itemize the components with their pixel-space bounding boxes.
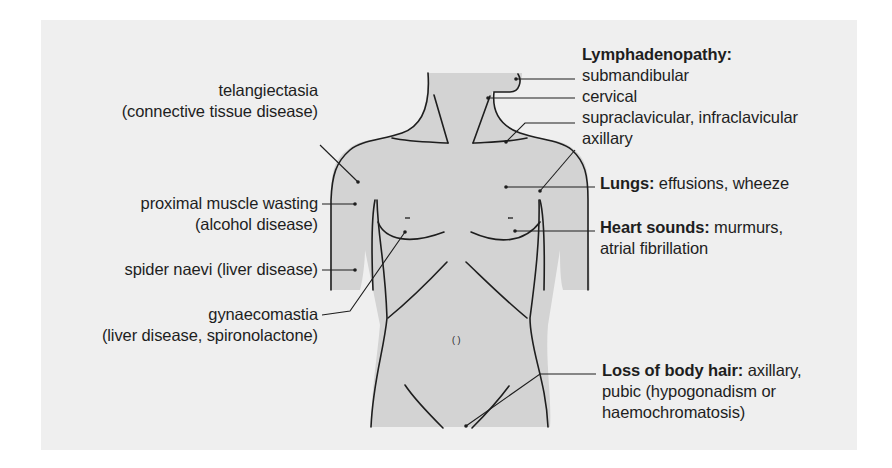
hair-text-line3: haemochromatosis) xyxy=(602,402,802,423)
label-heart-sounds: Heart sounds: murmurs, atrial fibrillati… xyxy=(600,217,783,259)
label-line: gynaecomastia xyxy=(102,304,318,325)
lymph-item-submandibular: submandibular xyxy=(582,65,798,86)
navel-icon: ( ) xyxy=(452,335,461,345)
hair-text-line2: pubic (hypogonadism or xyxy=(602,381,802,402)
heart-text-line2: atrial fibrillation xyxy=(600,238,783,259)
label-gynaecomastia: gynaecomastia (liver disease, spironolac… xyxy=(102,304,318,346)
label-line: telangiectasia xyxy=(122,80,318,101)
lungs-heading: Lungs: xyxy=(600,174,654,192)
label-lungs: Lungs: effusions, wheeze xyxy=(600,173,789,194)
label-line: proximal muscle wasting xyxy=(141,193,318,214)
label-lymphadenopathy: Lymphadenopathy: submandibular cervical … xyxy=(582,44,798,149)
label-line: (alcohol disease) xyxy=(141,214,318,235)
label-spider-naevi: spider naevi (liver disease) xyxy=(125,259,318,280)
label-telangiectasia: telangiectasia (connective tissue diseas… xyxy=(122,80,318,122)
lymph-item-cervical: cervical xyxy=(582,86,798,107)
lymph-item-supraclavicular: supraclavicular, infraclavicular xyxy=(582,107,798,128)
heart-text: murmurs, xyxy=(710,218,783,236)
hair-heading: Loss of body hair: xyxy=(602,361,743,379)
label-proximal-muscle-wasting: proximal muscle wasting (alcohol disease… xyxy=(141,193,318,235)
hair-text: axillary, xyxy=(743,361,801,379)
label-loss-of-body-hair: Loss of body hair: axillary, pubic (hypo… xyxy=(602,360,802,423)
label-line: spider naevi (liver disease) xyxy=(125,259,318,280)
lungs-text: effusions, wheeze xyxy=(654,174,789,192)
heart-heading: Heart sounds: xyxy=(600,218,710,236)
label-line: (liver disease, spironolactone) xyxy=(102,325,318,346)
lymph-item-axillary: axillary xyxy=(582,128,798,149)
lymphadenopathy-heading: Lymphadenopathy: xyxy=(582,44,798,65)
label-line: (connective tissue disease) xyxy=(122,101,318,122)
